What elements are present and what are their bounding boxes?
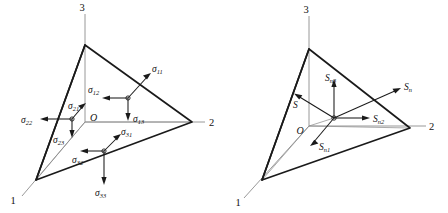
label-S: S [293,100,298,110]
S-symbol: S [293,100,298,110]
S-n3-subscript: n3 [330,77,336,84]
label-S-n1: Sn1 [319,142,330,153]
vertex-label-2-right: 2 [429,121,434,132]
right-diagram: 3 2 1 O Sn Sn3 Sn2 Sn1 S [0,0,448,213]
label-S-n: Sn [404,82,412,93]
tetrahedron-outline-right [262,49,410,180]
S-n1-subscript: n1 [324,146,330,153]
arrowhead-S-n [393,88,402,94]
vertex-label-3-right: 3 [303,4,308,15]
arrowhead-S-n2 [362,115,370,120]
arrowhead-S [294,94,302,100]
arrow-S [298,96,334,118]
tetra-edge-apex-bottomleft-right [262,49,309,180]
arrowhead-S-n1 [310,140,318,146]
vertex-label-1-right: 1 [235,197,240,208]
S-n-subscript: n [409,86,412,93]
figure-root: 3 2 1 O σ11 σ12 σ13 σ22 σ21 σ23 σ31 [0,0,448,213]
origin-label-right: O [296,125,303,136]
label-S-n3: Sn3 [325,73,336,84]
label-S-n2: Sn2 [373,114,385,125]
S-n2-subscript: n2 [378,118,385,125]
